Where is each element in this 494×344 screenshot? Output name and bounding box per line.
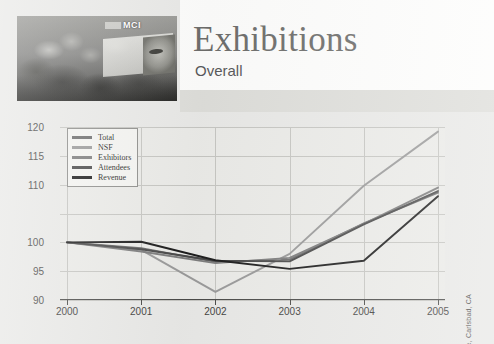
- x-axis-label: 2000: [56, 306, 78, 317]
- page-root: MCI Exhibitions Overall TotalNSFExhibito…: [0, 0, 494, 344]
- legend-swatch: [72, 166, 92, 169]
- x-axis-tick: [438, 300, 439, 305]
- series-line: [67, 191, 438, 261]
- photo-banner-logo-bar: [105, 22, 121, 29]
- legend-item-attendees: Attendees: [72, 163, 131, 172]
- series-line: [67, 188, 438, 264]
- x-axis-tick: [141, 300, 142, 305]
- source-credit: By Trade Show Executive magazine, Carlsb…: [465, 294, 472, 344]
- x-axis-label: 2001: [130, 306, 152, 317]
- x-axis-tick: [364, 300, 365, 305]
- legend-item-nsf: NSF: [72, 143, 131, 152]
- chart-legend: TotalNSFExhibitorsAttendeesRevenue: [67, 128, 138, 187]
- legend-label: Exhibitors: [98, 154, 131, 162]
- x-axis-tick: [290, 300, 291, 305]
- trade-show-photo: MCI: [17, 16, 177, 101]
- title-background-band-lower: [180, 90, 494, 112]
- legend-item-exhibitors: Exhibitors: [72, 153, 131, 162]
- legend-label: Attendees: [98, 164, 130, 172]
- page-title: Exhibitions: [193, 22, 358, 57]
- photo-banner-text: MCI: [123, 20, 141, 30]
- gridline-horizontal: [60, 300, 445, 301]
- legend-swatch: [72, 156, 92, 159]
- x-axis-label: 2003: [278, 306, 300, 317]
- x-axis-label: 2002: [204, 306, 226, 317]
- legend-label: Total: [98, 134, 114, 142]
- x-axis-label: 2005: [427, 306, 449, 317]
- x-axis-label: 2004: [353, 306, 375, 317]
- series-line: [67, 196, 438, 269]
- y-axis-label: 95: [4, 266, 44, 277]
- legend-swatch: [72, 136, 92, 139]
- y-axis-label: 120: [4, 122, 44, 133]
- line-chart: TotalNSFExhibitorsAttendeesRevenue By Tr…: [14, 118, 480, 322]
- legend-item-revenue: Revenue: [72, 173, 131, 182]
- y-axis-label: 100: [4, 237, 44, 248]
- photo-banner-face: [143, 35, 175, 76]
- series-line: [67, 193, 438, 262]
- page-subtitle: Overall: [195, 62, 243, 79]
- photo-vignette: [17, 75, 177, 101]
- x-axis-tick: [67, 300, 68, 305]
- legend-swatch: [72, 146, 92, 149]
- y-axis-label: 115: [4, 150, 44, 161]
- x-axis-tick: [215, 300, 216, 305]
- y-axis-label: 110: [4, 179, 44, 190]
- legend-swatch: [72, 176, 92, 179]
- legend-label: Revenue: [98, 174, 126, 182]
- legend-label: NSF: [98, 144, 113, 152]
- legend-item-total: Total: [72, 133, 131, 142]
- y-axis-label: 90: [4, 295, 44, 306]
